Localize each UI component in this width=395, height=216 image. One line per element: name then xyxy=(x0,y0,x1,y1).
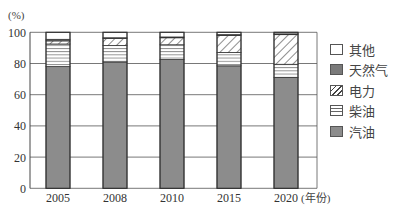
gasoline-swatch-icon xyxy=(330,126,343,137)
y-tick-label: 100 xyxy=(8,26,26,40)
y-tick-label: 20 xyxy=(14,151,26,165)
y-tick-label: 80 xyxy=(14,57,26,71)
bar-segment xyxy=(274,64,298,77)
y-tick-label: 0 xyxy=(20,182,26,196)
bar-segment xyxy=(46,41,70,44)
legend-item-other: 其他 xyxy=(330,39,388,60)
x-tick-label: 2008 xyxy=(103,191,127,205)
x-tick-label: 2005 xyxy=(46,191,70,205)
bar-segment xyxy=(160,32,184,37)
legend-item-gasoline: 汽油 xyxy=(330,121,388,142)
bar-segment xyxy=(103,46,127,62)
y-tick-label: 60 xyxy=(14,88,26,102)
legend-label: 柴油 xyxy=(349,101,375,120)
other-swatch-icon xyxy=(330,44,343,55)
bar-segment xyxy=(103,62,127,188)
bar-2008 xyxy=(103,32,127,188)
legend-label: 电力 xyxy=(349,81,375,100)
bar-segment xyxy=(160,60,184,189)
bar-segment xyxy=(217,35,241,52)
bar-2010 xyxy=(160,32,184,188)
x-tick-label: 2015 xyxy=(217,191,241,205)
bar-segment xyxy=(46,67,70,189)
legend: 其他 天然气 电力 柴油 汽油 xyxy=(330,39,388,142)
bar-segment xyxy=(274,78,298,189)
x-axis-unit: (年份) xyxy=(301,191,331,205)
y-axis-unit: (%) xyxy=(8,9,25,22)
legend-label: 其他 xyxy=(349,40,375,59)
bar-2015 xyxy=(217,32,241,188)
legend-item-natural-gas: 天然气 xyxy=(330,60,388,81)
legend-item-diesel: 柴油 xyxy=(330,101,388,122)
legend-label: 天然气 xyxy=(349,60,388,79)
x-tick-label: 2020 xyxy=(274,191,298,205)
legend-label: 汽油 xyxy=(349,122,375,141)
legend-item-electricity: 电力 xyxy=(330,80,388,101)
x-tick-label: 2010 xyxy=(160,191,184,205)
bar-segment xyxy=(274,35,298,65)
natural-gas-swatch-icon xyxy=(330,64,343,75)
bar-segment xyxy=(46,44,70,67)
bar-segment xyxy=(46,32,70,39)
bar-segment xyxy=(160,45,184,60)
x-axis-labels: 20052008201020152020(年份) xyxy=(46,191,331,205)
bar-segment xyxy=(217,66,241,188)
bar-2005 xyxy=(46,32,70,188)
bar-segment xyxy=(217,53,241,66)
bar-segment xyxy=(103,32,127,37)
diesel-swatch-icon xyxy=(330,105,343,116)
bar-2020 xyxy=(274,32,298,188)
y-tick-label: 40 xyxy=(14,119,26,133)
electricity-swatch-icon xyxy=(330,85,343,96)
bar-segment xyxy=(103,39,127,46)
bar-segment xyxy=(160,38,184,45)
bars xyxy=(46,32,298,188)
